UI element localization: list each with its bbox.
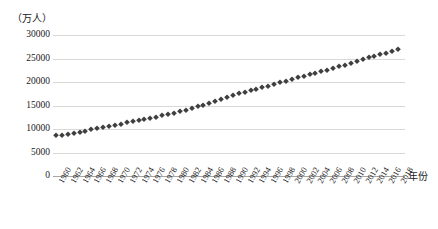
data-point-marker [313, 71, 318, 76]
data-point-marker [230, 93, 235, 98]
data-point-marker [224, 94, 229, 99]
y-axis-title: （万人） [12, 10, 52, 25]
gridline [53, 106, 405, 107]
data-point-marker [278, 80, 283, 85]
y-axis-tick-label: 10000 [2, 124, 50, 134]
data-point-marker [160, 113, 165, 118]
data-point-marker [165, 112, 170, 117]
data-point-marker [348, 60, 353, 65]
data-point-marker [112, 122, 117, 127]
data-point-marker [354, 58, 359, 63]
data-point-marker [395, 47, 400, 52]
data-point-marker [219, 96, 224, 101]
data-point-marker [325, 67, 330, 72]
data-point-marker [342, 62, 347, 67]
y-axis-tick-label: 30000 [2, 30, 50, 40]
y-axis-tick-label: 20000 [2, 77, 50, 87]
y-axis-tick-label: 0 [2, 171, 50, 181]
x-axis-tick-labels: 1960196219641966196819701972197419761978… [53, 180, 405, 229]
data-point-marker [183, 107, 188, 112]
data-point-marker [53, 133, 58, 138]
data-point-marker [301, 73, 306, 78]
data-point-marker [390, 48, 395, 53]
gridline [53, 35, 405, 36]
data-point-marker [207, 100, 212, 105]
data-point-marker [242, 89, 247, 94]
data-point-marker [77, 129, 82, 134]
plot-area [53, 35, 405, 176]
data-point-marker [295, 75, 300, 80]
data-point-marker [71, 130, 76, 135]
data-point-marker [213, 98, 218, 103]
data-point-marker [130, 119, 135, 124]
data-point-marker [360, 56, 365, 61]
y-axis-tick-label: 5000 [2, 148, 50, 158]
data-point-marker [154, 114, 159, 119]
data-point-marker [124, 120, 129, 125]
data-point-marker [177, 109, 182, 114]
data-point-marker [254, 86, 259, 91]
data-point-marker [384, 50, 389, 55]
data-point-marker [171, 110, 176, 115]
y-axis-tick-label: 25000 [2, 54, 50, 64]
data-point-marker [65, 131, 70, 136]
data-point-marker [372, 53, 377, 58]
gridline [53, 82, 405, 83]
y-axis-tick-labels: 300002500020000150001000050000 [0, 35, 50, 176]
gridline [53, 153, 405, 154]
data-point-marker [142, 116, 147, 121]
data-point-marker [107, 123, 112, 128]
data-point-marker [59, 132, 64, 137]
gridline [53, 59, 405, 60]
data-point-marker [336, 64, 341, 69]
data-point-marker [148, 115, 153, 120]
y-axis-tick-label: 15000 [2, 101, 50, 111]
gridline [53, 129, 405, 130]
population-line-chart: （万人） 年份 300002500020000150001000050000 1… [0, 0, 438, 229]
data-point-marker [289, 76, 294, 81]
data-point-marker [266, 83, 271, 88]
data-point-marker [118, 121, 123, 126]
data-point-marker [331, 66, 336, 71]
data-point-marker [236, 91, 241, 96]
data-point-marker [189, 106, 194, 111]
